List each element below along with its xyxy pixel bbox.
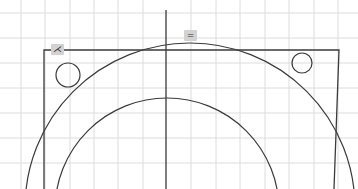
inner-arc[interactable] — [55, 98, 279, 189]
perpendicular-constraint-icon[interactable]: ⋌ — [51, 44, 64, 55]
grid — [0, 0, 358, 189]
perpendicular-glyph: ⋌ — [53, 45, 62, 54]
left-hole[interactable] — [56, 63, 80, 87]
equal-glyph: = — [187, 31, 195, 40]
equal-constraint-icon[interactable]: = — [184, 30, 197, 41]
sketch-drawing[interactable] — [0, 0, 358, 189]
sketch-canvas[interactable]: ⋌ = — [0, 0, 358, 189]
